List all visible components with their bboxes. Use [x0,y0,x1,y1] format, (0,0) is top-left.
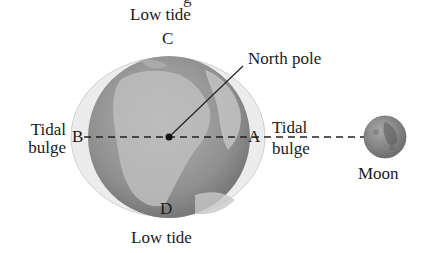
low-tide-bottom-label: Low tide [131,229,192,247]
tidal-bulge-right-line1: Tidal [272,119,307,137]
low-tide-top-label: Low tide [130,6,191,24]
point-a-label: A [248,128,260,146]
north-pole-label: North pole [248,50,321,68]
tidal-bulge-left-line2: bulge [18,139,66,157]
point-d-label: D [160,200,172,218]
point-c-label: C [162,30,173,48]
tidal-bulge-right-line2: bulge [272,140,310,158]
tidal-bulge-left-line1: Tidal [22,121,66,139]
point-b-label: B [72,128,83,146]
moon [364,116,406,158]
moon-label: Moon [358,165,399,183]
north-pole-dot [166,134,173,141]
